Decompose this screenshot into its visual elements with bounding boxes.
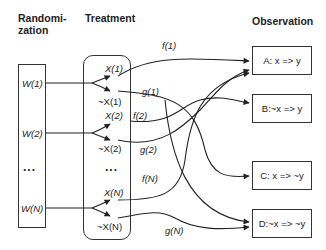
edge-f2 [130,98,249,122]
edge-f1 [118,59,249,76]
fork1-to-notx1 [92,83,110,91]
fork1-to-x1 [92,76,110,83]
edge-layer [0,0,326,250]
fork2-to-notx2 [92,133,110,140]
fork2-to-x2 [92,124,110,133]
edge-fn [118,73,249,200]
forkn-to-notxn [92,208,110,216]
edge-gn [118,213,249,229]
forkn-to-xn [92,200,110,208]
edge-g1 [118,91,249,177]
edge-g2 [118,70,249,142]
edge-g1-branch-d [165,100,249,222]
